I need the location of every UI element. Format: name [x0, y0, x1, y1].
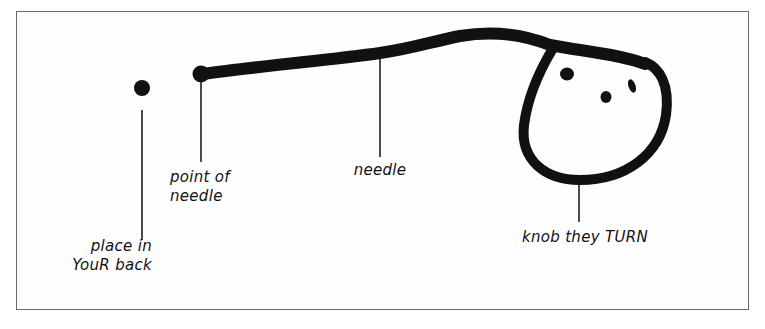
label-point-of-line2: needle — [170, 187, 230, 206]
target-dot — [134, 80, 150, 96]
knob-dot-2 — [601, 91, 612, 103]
label-place-in-line2: YouR back — [52, 256, 152, 275]
label-knob-they-turn: knob they TURN — [522, 228, 648, 247]
label-needle: needle — [340, 161, 420, 180]
label-place-in-line1: place in — [52, 237, 152, 256]
label-point-of-line1: point of — [170, 168, 230, 187]
knob-dot-1 — [560, 68, 574, 81]
knob-dot-3 — [626, 78, 637, 94]
needle-shaft — [203, 33, 645, 74]
label-point-of-needle: point of needle — [170, 168, 230, 206]
needle-point — [193, 66, 210, 83]
label-place-in-your-back: place in YouR back — [52, 237, 152, 275]
